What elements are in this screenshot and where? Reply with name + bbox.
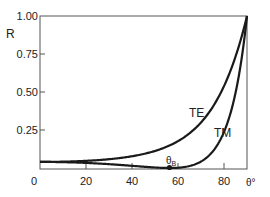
y-tick-label: 0.75 <box>17 48 38 60</box>
brewster-angle-label: θB <box>166 155 177 167</box>
tm-curve <box>40 16 247 168</box>
x-tick-label: 80 <box>218 175 230 187</box>
curves <box>40 16 247 170</box>
tm-curve-label: TM <box>214 126 231 140</box>
x-tick-label: 40 <box>126 175 138 187</box>
axes: 0.250.500.751.00020406080 <box>17 10 247 187</box>
annotations: R θ° TE TM θB <box>6 27 256 188</box>
te-curve-label: TE <box>189 106 204 120</box>
y-axis-label: R <box>6 27 15 41</box>
x-tick-label: 20 <box>80 175 92 187</box>
y-tick-label: 0.50 <box>17 86 38 98</box>
x-axis-label: θ° <box>246 177 256 188</box>
reflectance-chart: 0.250.500.751.00020406080 R θ° TE TM θB <box>0 0 270 197</box>
x-tick-label: 0 <box>31 175 37 187</box>
te-curve <box>40 16 247 162</box>
x-tick-label: 60 <box>172 175 184 187</box>
y-tick-label: 0.25 <box>17 124 38 136</box>
y-tick-label: 1.00 <box>17 10 38 22</box>
